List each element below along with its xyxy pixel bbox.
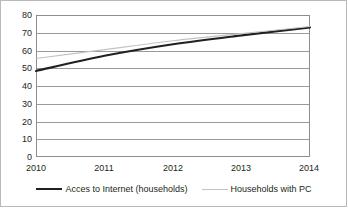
line-chart-figure: 80 70 60 50 40 30 20 10 0 2010 2011 2012… [0, 0, 348, 208]
x-tick-label: 2011 [81, 163, 127, 173]
y-tick-label: 30 [4, 100, 32, 109]
legend: Acces to Internet (households) Household… [0, 184, 348, 194]
y-tick-label: 80 [4, 11, 32, 20]
y-tick-label: 60 [4, 47, 32, 56]
plot-area [36, 15, 310, 157]
series-line [36, 27, 310, 59]
legend-line-icon [36, 188, 62, 190]
y-tick-label: 70 [4, 29, 32, 38]
x-tick-label: 2012 [150, 163, 196, 173]
y-tick-label: 0 [4, 153, 32, 162]
y-tick-label: 40 [4, 82, 32, 91]
legend-entry-pc: Households with PC [202, 184, 312, 194]
legend-line-icon [202, 189, 228, 190]
y-tick-label: 20 [4, 118, 32, 127]
legend-label: Acces to Internet (households) [65, 184, 187, 194]
y-tick-label: 50 [4, 64, 32, 73]
x-tick-label: 2013 [218, 163, 264, 173]
series-lines [36, 15, 310, 157]
y-tick-label: 10 [4, 135, 32, 144]
legend-label: Households with PC [231, 184, 312, 194]
legend-entry-internet: Acces to Internet (households) [36, 184, 187, 194]
series-line [36, 27, 310, 70]
x-tick-label: 2010 [13, 163, 59, 173]
x-tick-label: 2014 [286, 163, 332, 173]
